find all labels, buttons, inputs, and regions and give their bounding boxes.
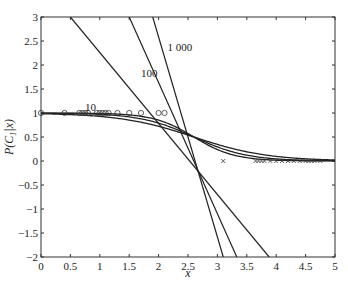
linear-function-100 xyxy=(129,17,237,257)
x-axis-label: x xyxy=(184,266,191,280)
data-markers xyxy=(38,110,322,163)
linear-function-10 xyxy=(70,17,269,257)
line-label: 1 000 xyxy=(167,41,192,53)
x-tick-label: 1 xyxy=(97,260,103,272)
line-labels: 101001 000 xyxy=(85,41,193,113)
y-tick-label: 1.5 xyxy=(24,83,38,95)
y-tick-label: 0.5 xyxy=(24,131,38,143)
class1-marker xyxy=(138,110,143,115)
y-tick-label: −0.5 xyxy=(18,179,38,191)
linear-functions xyxy=(70,17,269,257)
class1-marker xyxy=(156,110,161,115)
linear-function-1000 xyxy=(153,17,224,257)
chart: 00.511.522.533.544.55−2−1.5−1−0.500.511.… xyxy=(0,0,348,286)
y-tick-label: −1.5 xyxy=(18,227,38,239)
y-tick-label: 2.5 xyxy=(24,35,38,47)
x-tick-label: 0.5 xyxy=(64,260,78,272)
class1-marker xyxy=(162,110,167,115)
x-tick-label: 5 xyxy=(332,260,338,272)
y-tick-label: 2 xyxy=(33,59,39,71)
line-label: 10 xyxy=(85,101,97,113)
y-axis-label: P(C1|x) xyxy=(2,119,18,156)
x-tick-label: 4.5 xyxy=(299,260,313,272)
y-tick-label: 0 xyxy=(33,155,39,167)
x-tick-label: 3 xyxy=(215,260,221,272)
class1-marker xyxy=(115,110,120,115)
y-tick-label: −2 xyxy=(26,251,38,263)
line-label: 100 xyxy=(141,67,158,79)
x-tick-label: 1.5 xyxy=(122,260,136,272)
x-tick-label: 0 xyxy=(38,260,44,272)
x-tick-label: 2 xyxy=(156,260,162,272)
y-tick-label: 3 xyxy=(33,11,39,23)
y-tick-label: −1 xyxy=(26,203,38,215)
x-tick-label: 3.5 xyxy=(240,260,254,272)
y-tick-label: 1 xyxy=(33,107,39,119)
x-tick-label: 4 xyxy=(273,260,279,272)
